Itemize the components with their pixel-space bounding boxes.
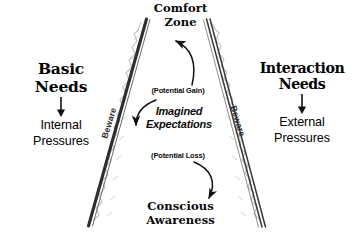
interaction-needs-group: Interaction Needs External Pressures	[243, 60, 361, 146]
potential-gain-label: (Potential Gain)	[118, 87, 238, 95]
basic-needs-heading: Basic Needs	[2, 60, 120, 96]
external-pressures-label: External Pressures	[243, 115, 361, 146]
imagined-expectations-label: Imagined Expectations	[120, 105, 238, 132]
gain-arrow	[176, 41, 194, 85]
conscious-awareness-label: Conscious Awareness	[0, 200, 361, 227]
comfort-zone-label: Comfort Zone	[0, 2, 361, 29]
down-arrow-icon	[243, 93, 361, 115]
conscious-awareness-text: Conscious Awareness	[0, 200, 361, 227]
loss-arrow	[194, 162, 213, 198]
interaction-needs-heading: Interaction Needs	[243, 60, 361, 93]
potential-loss-label: (Potential Loss)	[118, 152, 238, 160]
diagram-canvas: Comfort Zone Conscious Awareness Basic N…	[0, 0, 361, 243]
down-arrow-icon	[2, 96, 120, 118]
comfort-zone-line-1: Comfort Zone	[0, 2, 361, 29]
